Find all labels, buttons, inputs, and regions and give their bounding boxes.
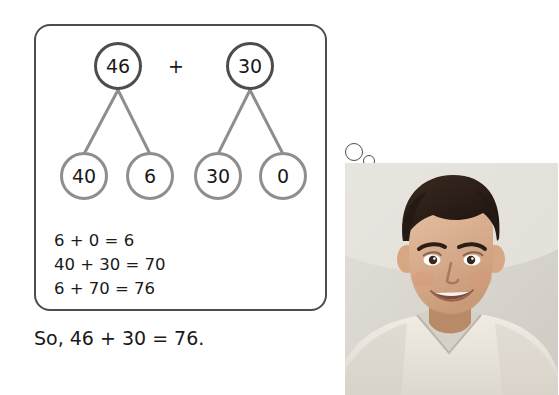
- bond2-right-leaf-value: 0: [277, 165, 289, 187]
- bond1-right-leaf-value: 6: [144, 165, 156, 187]
- equation-line-1: 6 + 0 = 6: [54, 229, 284, 253]
- equation-line-3: 6 + 70 = 76: [54, 277, 284, 301]
- equation-line-2: 40 + 30 = 70: [54, 253, 284, 277]
- worksheet-canvas: 46 40 6 + 30 30 0 6 + 0 = 6 40 + 30 = 70…: [0, 0, 559, 395]
- bond2-left-leaf-node: 30: [194, 152, 242, 200]
- bond2-top-value: 30: [238, 55, 262, 77]
- bond1-top-value: 46: [106, 55, 130, 77]
- conclusion-text: So, 46 + 30 = 76.: [34, 327, 204, 349]
- bond1-top-node: 46: [94, 42, 142, 90]
- bond1-left-leaf-value: 40: [72, 165, 96, 187]
- photo-of-smiling-boy: [345, 163, 558, 395]
- large-bubble-dot-icon: [345, 143, 363, 161]
- equation-list: 6 + 0 = 6 40 + 30 = 70 6 + 70 = 76: [54, 229, 284, 301]
- bond2-left-leaf-value: 30: [206, 165, 230, 187]
- bond2-right-leaf-node: 0: [259, 152, 307, 200]
- plus-operator: +: [168, 55, 184, 77]
- bond1-right-leaf-node: 6: [126, 152, 174, 200]
- bond2-top-node: 30: [226, 42, 274, 90]
- bond1-left-leaf-node: 40: [60, 152, 108, 200]
